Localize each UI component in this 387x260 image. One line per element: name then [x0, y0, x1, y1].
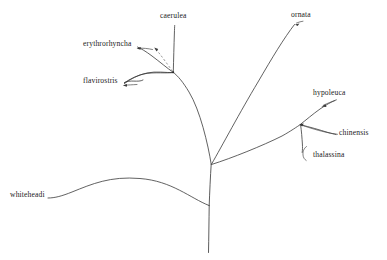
- taxon-label-flavirostris: flavirostris: [83, 77, 118, 85]
- taxon-label-hypoleuca: hypoleuca: [313, 89, 346, 97]
- branch-hypoleuca: [301, 101, 336, 125]
- node-upper-marker: [172, 71, 174, 73]
- taxon-label-chinensis: chinensis: [339, 129, 369, 137]
- branch-whiteheadi: [48, 178, 209, 205]
- branch-basal-to-main: [209, 164, 211, 205]
- dashed-branch-arrowhead: [154, 48, 158, 52]
- taxon-label-erythrorhyncha: erythrorhyncha: [83, 40, 132, 48]
- figure-canvas: caerulea ornata erythrorhyncha flavirost…: [0, 0, 387, 260]
- taxon-label-whiteheadi: whiteheadi: [10, 191, 45, 199]
- leader-ornata-arrowhead: [295, 23, 299, 26]
- branch-main-to-upper: [173, 72, 211, 164]
- branch-ornata: [212, 25, 295, 165]
- branch-caerulea: [173, 26, 174, 73]
- taxon-label-caerulea: caerulea: [160, 12, 187, 20]
- branch-erythrorhyncha: [138, 47, 174, 72]
- leader-flavirostris-arrowhead: [123, 84, 127, 87]
- thalassina-bracket: [303, 147, 307, 161]
- taxon-label-thalassina: thalassina: [313, 151, 344, 159]
- leader-ornata: [297, 21, 304, 23]
- phylogenetic-tree-graphic: [0, 0, 387, 260]
- taxon-label-ornata: ornata: [291, 11, 311, 19]
- branch-thalassina: [301, 125, 303, 153]
- branch-root-trunk: [209, 206, 210, 253]
- branch-main-to-right: [212, 125, 301, 165]
